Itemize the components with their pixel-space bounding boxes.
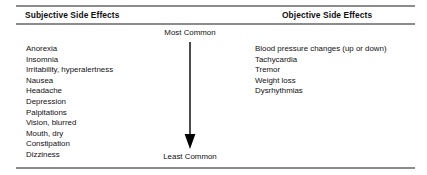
objective-side-effects-list: Blood pressure changes (up or down) Tach… — [255, 44, 387, 97]
side-effects-table-figure: Subjective Side Effects Objective Side E… — [0, 0, 427, 175]
list-item: Weight loss — [255, 76, 387, 87]
scale-label-least-common: Least Common — [140, 152, 240, 161]
list-item: Nausea — [26, 76, 113, 87]
list-item: Blood pressure changes (up or down) — [255, 44, 387, 55]
list-item: Anorexia — [26, 44, 113, 55]
list-item: Dizziness — [26, 150, 113, 161]
table-top-rule — [16, 5, 415, 7]
list-item: Tachycardia — [255, 55, 387, 66]
list-item: Constipation — [26, 139, 113, 150]
list-item: Depression — [26, 97, 113, 108]
list-item: Irritability, hyperalertness — [26, 65, 113, 76]
downward-arrow-icon — [165, 42, 215, 150]
list-item: Tremor — [255, 65, 387, 76]
frequency-scale: Most Common Least Common — [140, 28, 240, 163]
column-header-subjective: Subjective Side Effects — [25, 10, 119, 20]
column-header-objective: Objective Side Effects — [282, 10, 372, 20]
table-bottom-rule — [16, 167, 415, 169]
list-item: Mouth, dry — [26, 129, 113, 140]
subjective-side-effects-list: Anorexia Insomnia Irritability, hyperale… — [26, 44, 113, 161]
list-item: Headache — [26, 86, 113, 97]
list-item: Vision, blurred — [26, 118, 113, 129]
list-item: Dysrhythmias — [255, 86, 387, 97]
list-item: Palpitations — [26, 108, 113, 119]
list-item: Insomnia — [26, 55, 113, 66]
table-header-rule — [16, 23, 415, 25]
scale-label-most-common: Most Common — [140, 28, 240, 37]
